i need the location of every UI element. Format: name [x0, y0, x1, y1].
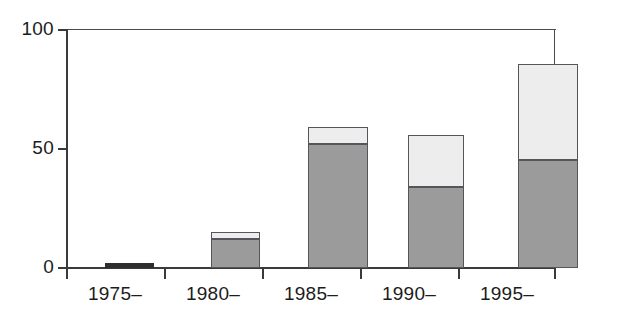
bar-1980 [211, 232, 260, 268]
bar-segment-upper-1990 [408, 135, 464, 187]
x-axis-tick-2 [262, 268, 264, 279]
bar-segment-lower-1980 [211, 239, 260, 268]
bar-segment-lower-1975 [105, 263, 154, 268]
y-axis-label-100: 100 [0, 18, 54, 40]
bar-1995 [518, 64, 578, 268]
x-axis-tick-5 [554, 268, 556, 279]
bar-segment-lower-1990 [408, 187, 464, 268]
y-axis-label-50: 50 [0, 137, 54, 159]
bar-1975 [105, 263, 154, 268]
stacked-bar-chart: 100 50 0 1975– 1980– 1985– 1990– 1995– [0, 0, 635, 316]
x-axis-tick-3 [360, 268, 362, 279]
x-axis-tick-4 [458, 268, 460, 279]
bar-segment-lower-1985 [308, 144, 368, 268]
bar-segment-upper-1980 [211, 232, 260, 239]
bar-segment-upper-1985 [308, 127, 368, 144]
x-axis-tick-0 [66, 268, 68, 279]
plot-area [66, 30, 555, 268]
bar-segment-upper-1995 [518, 64, 578, 160]
x-axis-label-1995: 1995– [447, 283, 567, 305]
bar-1990 [408, 135, 464, 268]
x-axis-tick-1 [164, 268, 166, 279]
bar-1985 [308, 127, 368, 268]
y-axis-label-0: 0 [0, 256, 54, 278]
bar-segment-lower-1995 [518, 160, 578, 268]
